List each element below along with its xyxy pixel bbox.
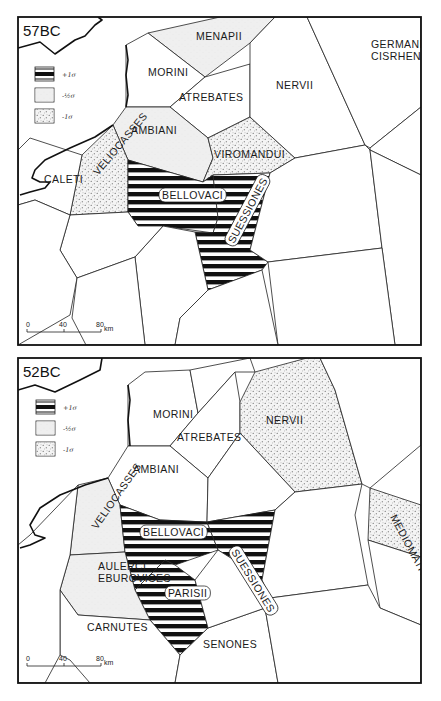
territory-label-bellovaci: BELLOVACI	[140, 525, 207, 539]
svg-text:VIROMANDUI: VIROMANDUI	[214, 148, 285, 160]
territory-label-nervii: NERVII	[276, 79, 313, 91]
svg-text:MORINI: MORINI	[148, 66, 188, 78]
territory-label-parisii: PARISII	[165, 586, 210, 600]
svg-text:40: 40	[59, 321, 67, 328]
svg-text:MORINI: MORINI	[153, 408, 193, 420]
map-figure: MENAPIIMORINIATREBATESAMBIANIVIROMANDUIV…	[0, 0, 441, 701]
svg-text:BELLOVACI: BELLOVACI	[143, 526, 204, 538]
panel-title: 57BC	[23, 22, 61, 39]
svg-text:CALETI: CALETI	[44, 173, 83, 185]
legend-label: +1σ	[63, 404, 78, 412]
svg-text:MENAPII: MENAPII	[196, 30, 242, 42]
svg-text:80: 80	[96, 321, 104, 328]
svg-text:BELLOVACI: BELLOVACI	[162, 189, 223, 201]
legend-label: +1σ	[62, 71, 77, 79]
territory-label-germani-cisrhenani: GERMANICISRHENANI	[371, 38, 440, 62]
territory-label-morini: MORINI	[153, 408, 193, 420]
territory-s-1	[268, 248, 395, 345]
svg-text:km: km	[104, 659, 114, 666]
svg-text:PARISII: PARISII	[168, 587, 207, 599]
territory-label-viromandui: VIROMANDUI	[214, 148, 285, 160]
svg-text:GERMANICISRHENANI: GERMANICISRHENANI	[371, 38, 440, 62]
territory-label-nervii: NERVII	[266, 414, 303, 426]
svg-text:ATREBATES: ATREBATES	[179, 91, 243, 103]
svg-text:0: 0	[26, 655, 30, 662]
territory-label-morini: MORINI	[148, 66, 188, 78]
svg-text:CARNUTES: CARNUTES	[87, 621, 148, 633]
svg-text:80: 80	[96, 655, 104, 662]
svg-text:40: 40	[59, 655, 67, 662]
svg-text:NERVII: NERVII	[276, 79, 313, 91]
legend-label: -½σ	[62, 92, 75, 100]
svg-text:NERVII: NERVII	[266, 414, 303, 426]
panel-title: 52BC	[23, 363, 61, 380]
territory-label-atrebates: ATREBATES	[177, 431, 241, 443]
legend-label: -½σ	[63, 425, 76, 433]
territory-label-menapii: MENAPII	[196, 30, 242, 42]
svg-text:ATREBATES: ATREBATES	[177, 431, 241, 443]
svg-text:0: 0	[26, 321, 30, 328]
map-panel-57bc: MENAPIIMORINIATREBATESAMBIANIVIROMANDUIV…	[18, 17, 440, 345]
svg-text:km: km	[104, 325, 114, 332]
territory-label-caleti: CALETI	[44, 173, 83, 185]
legend-label: -1σ	[62, 113, 73, 121]
legend-label: -1σ	[63, 446, 74, 454]
territory-label-atrebates: ATREBATES	[179, 91, 243, 103]
territory-label-bellovaci: BELLOVACI	[159, 188, 226, 202]
territory-label-carnutes: CARNUTES	[87, 621, 148, 633]
svg-text:SENONES: SENONES	[203, 638, 257, 650]
map-panel-52bc: MORINIATREBATESNERVIIAMBIANIVELIOCASSESB…	[18, 358, 437, 683]
territory-label-senones: SENONES	[203, 638, 257, 650]
